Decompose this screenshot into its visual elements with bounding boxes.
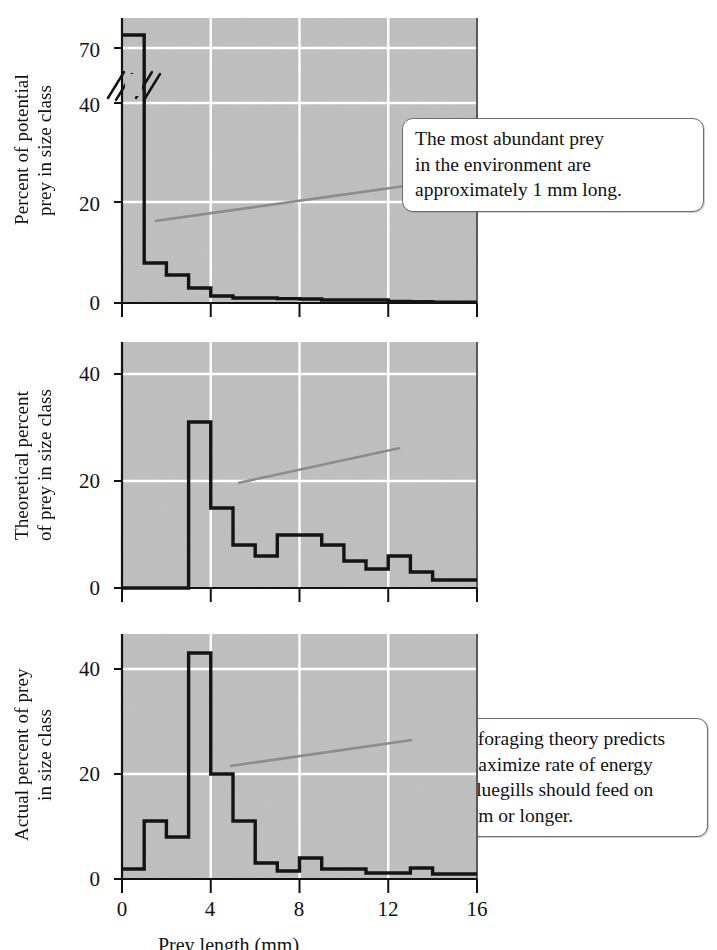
y-tick-mid-0: 0	[50, 576, 100, 601]
panel-actual-prey: Actual percent of prey in size class 40 …	[0, 612, 717, 950]
y-tick-top-0: 0	[50, 291, 100, 316]
y-tick-mid-20: 20	[50, 469, 100, 494]
plot-area-bottom	[100, 612, 500, 912]
y-tick-top-20: 20	[50, 192, 100, 217]
y-tick-mid-40: 40	[50, 362, 100, 387]
prey-size-class-figure: Percent of potential prey in size class …	[0, 0, 717, 950]
y-tick-bottom-40: 40	[50, 657, 100, 682]
callout-most-abundant-prey: The most abundant prey in the environmen…	[402, 118, 704, 212]
plot-area-middle	[100, 322, 500, 622]
panel-theoretical-prey: Theoretical percent of prey in size clas…	[0, 322, 717, 622]
y-tick-bottom-0: 0	[50, 867, 100, 892]
y-tick-top-40: 40	[50, 93, 100, 118]
x-tick-8: 8	[279, 897, 319, 922]
y-tick-bottom-20: 20	[50, 762, 100, 787]
x-axis-title: Prey length (mm)	[0, 934, 587, 950]
x-tick-12: 12	[368, 897, 408, 922]
x-tick-0: 0	[102, 897, 142, 922]
x-tick-16: 16	[457, 897, 497, 922]
x-tick-4: 4	[190, 897, 230, 922]
panel-potential-prey: Percent of potential prey in size class …	[0, 0, 717, 330]
y-tick-top-70: 70	[50, 38, 100, 63]
